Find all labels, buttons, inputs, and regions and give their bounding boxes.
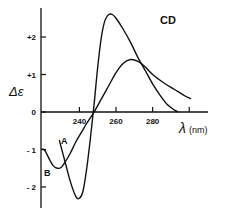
- curve-a-label: A: [61, 136, 68, 146]
- curve-b: [41, 59, 191, 168]
- chart-title: CD: [160, 14, 176, 26]
- x-ticks: 240260280: [73, 107, 189, 126]
- cd-spectrum-chart: - 2- 10+1+2 240260280 CD Δε λ (nm) A B: [0, 0, 228, 222]
- y-tick-label: +2: [27, 33, 37, 42]
- y-tick-label: - 2: [27, 183, 37, 192]
- y-axis-label: Δε: [8, 84, 24, 99]
- curve-b-label: B: [44, 168, 51, 178]
- x-tick-label: 240: [73, 117, 87, 126]
- y-tick-label: 0: [32, 108, 37, 117]
- y-tick-label: - 1: [27, 146, 37, 155]
- x-axis-label-unit: (nm): [189, 125, 208, 135]
- y-tick-label: +1: [27, 71, 37, 80]
- x-tick-label: 280: [146, 117, 160, 126]
- curve-a: [59, 14, 178, 199]
- x-tick-label: 260: [109, 117, 123, 126]
- x-axis-label-symbol: λ: [178, 120, 186, 136]
